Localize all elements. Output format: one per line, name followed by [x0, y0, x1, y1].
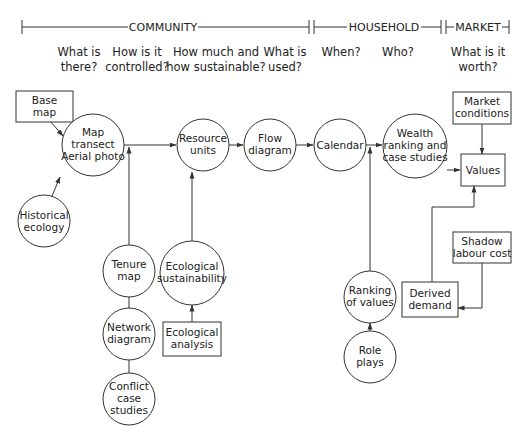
node-market-conditions: Market conditions [453, 92, 511, 124]
node-label: Base [32, 94, 58, 106]
header-bar: COMMUNITY HOUSEHOLD MARKET [22, 20, 509, 34]
node-label: Shadow [461, 235, 503, 247]
node-label: conditions [455, 107, 509, 119]
node-label: ranking and [384, 139, 447, 151]
node-label: Resource [179, 132, 227, 144]
node-label: Flow [258, 132, 282, 144]
diagram-canvas: COMMUNITY HOUSEHOLD MARKET What is there… [0, 0, 524, 443]
node-resource-units: Resource units [177, 119, 229, 171]
node-flow-diagram: Flow diagram [244, 119, 296, 171]
node-ecological-analysis: Ecological analysis [163, 322, 221, 356]
node-ranking-of-values: Ranking of values [344, 271, 396, 323]
question-used-l1: What is [263, 45, 306, 59]
node-label: Market [464, 95, 500, 107]
edge-shadow-to-derived [458, 262, 482, 308]
question-what-is-there-l1: What is [57, 45, 100, 59]
question-who: Who? [382, 45, 414, 59]
node-label: case studies [382, 151, 447, 163]
node-shadow-labour-cost: Shadow labour cost [453, 232, 512, 263]
node-label: ecology [24, 221, 65, 233]
node-label: labour cost [453, 247, 512, 259]
node-label: Network [107, 321, 152, 333]
node-label: Calendar [316, 139, 364, 151]
node-label: Aerial photo [61, 150, 125, 162]
node-label: plays [356, 356, 384, 368]
node-label: diagram [248, 144, 292, 156]
node-label: analysis [171, 338, 214, 350]
node-label: Wealth [397, 127, 433, 139]
node-label: Derived [409, 287, 450, 299]
node-ecological-sustainability: Ecological sustainability [157, 241, 227, 305]
node-label: Conflict [109, 380, 149, 392]
section-label-community: COMMUNITY [129, 21, 198, 34]
node-tenure-map: Tenure map [103, 245, 155, 297]
question-sustainable-l1: How much and [173, 45, 259, 59]
section-label-household: HOUSEHOLD [349, 21, 419, 34]
node-calendar: Calendar [314, 119, 366, 171]
node-derived-demand: Derived demand [402, 282, 458, 317]
node-label: Historical [19, 209, 68, 221]
question-controlled-l1: How is it [112, 45, 162, 59]
node-label: studies [110, 404, 148, 416]
question-when: When? [321, 45, 360, 59]
edge-historical-to-map-transect [52, 177, 60, 196]
node-label: Values [466, 164, 500, 176]
question-row: What is there? How is it controlled? How… [57, 45, 505, 74]
section-label-market: MARKET [455, 21, 501, 34]
node-label: sustainability [157, 272, 227, 284]
node-role-plays: Role plays [344, 331, 396, 383]
node-label: demand [408, 299, 451, 311]
node-label: diagram [107, 333, 151, 345]
node-label: Map [82, 126, 104, 138]
node-conflict-case-studies: Conflict case studies [103, 373, 155, 425]
node-label: map [117, 270, 141, 282]
node-label: case [117, 392, 141, 404]
question-what-is-there-l2: there? [61, 60, 98, 74]
question-controlled-l2: controlled? [105, 60, 169, 74]
question-used-l2: used? [268, 60, 302, 74]
node-wealth-ranking: Wealth ranking and case studies [382, 114, 447, 178]
question-worth-l2: worth? [458, 60, 497, 74]
node-label: Role [359, 344, 382, 356]
node-label: Tenure [111, 258, 147, 270]
node-historical-ecology: Historical ecology [18, 195, 70, 247]
node-label: Ranking [349, 284, 391, 296]
node-label: Ecological [166, 326, 219, 338]
question-sustainable-l2: how sustainable? [166, 60, 265, 74]
node-values: Values [461, 154, 505, 186]
node-label: units [190, 144, 216, 156]
node-map-transect: Map transect Aerial photo [61, 114, 125, 176]
node-label: Ecological [166, 260, 219, 272]
node-base-map: Base map [16, 91, 73, 122]
node-network-diagram: Network diagram [103, 308, 155, 360]
node-label: map [33, 106, 57, 118]
node-label: transect [71, 138, 114, 150]
node-label: of values [346, 296, 394, 308]
edge-base-map-to-map-transect [51, 122, 63, 136]
question-worth-l1: What is it [451, 45, 506, 59]
